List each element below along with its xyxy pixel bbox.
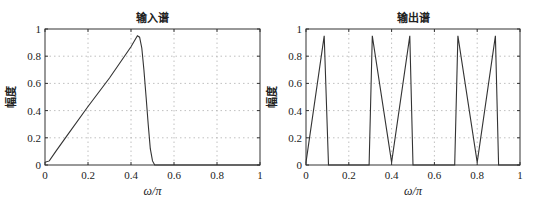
chart-title: 输入谱 <box>136 11 169 24</box>
output-spectrum-chart: 00.20.40.60.8100.20.40.60.81输出谱ω/π幅度 <box>261 0 535 201</box>
y-tick-label: 1 <box>36 23 42 35</box>
x-tick-label: 1 <box>517 169 523 181</box>
input-spectrum-chart: 00.20.40.60.8100.20.40.60.81输入谱ω/π幅度 <box>0 0 267 201</box>
y-tick-label: 0.6 <box>27 77 41 89</box>
y-tick-label: 0 <box>297 159 303 171</box>
chart-title: 输出谱 <box>397 11 430 24</box>
y-tick-label: 0.4 <box>27 105 41 117</box>
x-tick-label: 0.4 <box>385 169 399 181</box>
x-tick-label: 0.4 <box>124 169 138 181</box>
y-tick-label: 0.2 <box>27 132 41 144</box>
x-tick-label: 0 <box>303 169 309 181</box>
y-tick-label: 0.6 <box>288 77 302 89</box>
y-tick-label: 0 <box>36 159 42 171</box>
x-axis-label: ω/π <box>144 184 163 198</box>
output-spectrum-panel: 00.20.40.60.8100.20.40.60.81输出谱ω/π幅度 <box>261 0 528 201</box>
y-axis-label: 幅度 <box>265 85 278 108</box>
y-tick-label: 0.4 <box>288 105 302 117</box>
y-tick-label: 1 <box>297 23 303 35</box>
y-tick-label: 0.2 <box>288 132 302 144</box>
x-axis-label: ω/π <box>404 184 423 198</box>
axes-box <box>45 29 260 165</box>
series-line-output <box>306 36 520 165</box>
x-tick-label: 0.8 <box>470 169 484 181</box>
input-spectrum-panel: 00.20.40.60.8100.20.40.60.81输入谱ω/π幅度 <box>0 0 267 201</box>
grid-lines <box>45 29 260 165</box>
y-axis-label: 幅度 <box>4 85 17 108</box>
x-tick-label: 0.8 <box>210 169 224 181</box>
series-line-input <box>45 36 260 165</box>
x-tick-label: 0.6 <box>428 169 442 181</box>
x-tick-label: 0.2 <box>81 169 95 181</box>
x-tick-label: 0.6 <box>167 169 181 181</box>
x-tick-label: 0.2 <box>342 169 356 181</box>
y-tick-label: 0.8 <box>27 50 41 62</box>
y-tick-label: 0.8 <box>288 50 302 62</box>
x-tick-label: 0 <box>42 169 48 181</box>
